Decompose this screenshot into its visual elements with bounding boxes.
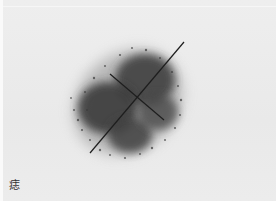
spot-lobe-right <box>138 94 178 130</box>
mole-spot-graphic <box>0 0 276 201</box>
mole-photo: 痣 <box>0 0 276 201</box>
caption-label: 痣 <box>9 180 20 192</box>
